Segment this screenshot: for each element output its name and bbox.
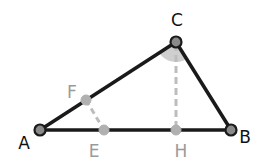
- point-a: [35, 125, 46, 136]
- label-h: H: [175, 141, 188, 161]
- label-b: B: [239, 127, 251, 147]
- label-a: A: [18, 133, 30, 153]
- label-c: C: [171, 10, 183, 30]
- segment-bc: [176, 42, 231, 130]
- point-c: [171, 37, 182, 48]
- segment-ac: [40, 42, 176, 130]
- point-h: [171, 125, 181, 135]
- label-e: E: [89, 141, 100, 161]
- point-b: [226, 125, 237, 136]
- point-e: [99, 125, 109, 135]
- label-f: F: [67, 82, 77, 102]
- point-f: [81, 95, 91, 105]
- geometry-diagram: C A B F E H: [0, 0, 262, 165]
